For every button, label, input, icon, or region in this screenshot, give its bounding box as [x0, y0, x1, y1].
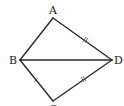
vertex-label-c: C	[49, 103, 57, 106]
vertex-label-b: B	[9, 54, 17, 67]
quadrilateral-diagram: A B D C	[0, 0, 124, 106]
segment-ad	[53, 18, 112, 60]
vertex-label-a: A	[48, 4, 58, 17]
segment-cd	[53, 60, 112, 101]
vertex-label-d: D	[114, 54, 123, 67]
segment-bc	[20, 60, 53, 101]
